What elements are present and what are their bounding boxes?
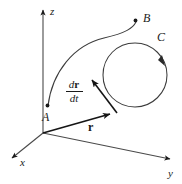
vector-calculus-figure: z x y A B C dr dt r (0, 0, 182, 184)
derivative-numerator: dr (61, 79, 87, 91)
x-axis-line (12, 133, 43, 158)
point-b-label: B (143, 12, 150, 24)
loop-curve-c (103, 43, 167, 107)
point-a-label: A (42, 111, 49, 123)
figure-canvas (0, 0, 182, 184)
curve-c-label: C (157, 31, 165, 43)
position-vector-label: r (88, 121, 93, 133)
x-axis-label: x (20, 157, 25, 168)
numerator-vector-r: r (74, 78, 79, 90)
derivative-denominator: dt (61, 92, 87, 104)
point-b-dot (134, 19, 138, 23)
position-vector-r-arrow (43, 114, 110, 133)
point-a-dot (46, 104, 50, 108)
y-axis-line (43, 133, 170, 159)
z-axis-label: z (50, 6, 54, 17)
derivative-vector-label: dr dt (61, 79, 87, 104)
coordinate-axes (12, 10, 170, 159)
y-axis-label: y (168, 168, 173, 179)
